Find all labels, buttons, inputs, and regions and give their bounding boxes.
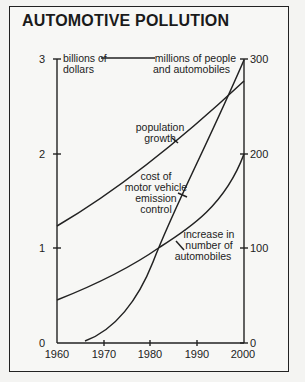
right-tick-300: 300 <box>250 53 268 65</box>
left-tick-2: 2 <box>39 148 45 160</box>
right-tick-100: 100 <box>250 242 268 254</box>
left-tick-1: 1 <box>39 242 45 254</box>
x-tick-1980: 1980 <box>138 348 162 360</box>
chart-plot: 3 2 1 0 300 200 100 0 1960 1970 1980 199… <box>0 0 305 382</box>
annotation-population-2: growth <box>144 132 176 144</box>
annotation-automobiles-3: automobiles <box>175 250 232 262</box>
left-tick-3: 3 <box>39 53 45 65</box>
x-tick-1960: 1960 <box>45 348 69 360</box>
x-tick-1970: 1970 <box>92 348 116 360</box>
x-tick-1990: 1990 <box>185 348 209 360</box>
right-axis-unit-label-2: and automobiles <box>153 63 230 75</box>
right-tick-200: 200 <box>250 148 268 160</box>
x-tick-2000: 2000 <box>231 348 255 360</box>
left-axis-unit-label-2: dollars <box>63 63 94 75</box>
annotation-cost-4: control <box>140 203 172 215</box>
